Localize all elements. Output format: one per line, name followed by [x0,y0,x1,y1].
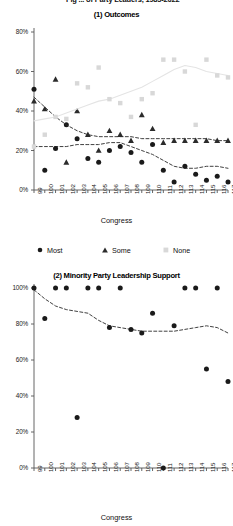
figure-header-text: Fig ... of Party Leaders, 1985-2022 [66,0,179,4]
x-tick-label: 108 [133,462,140,472]
data-point-minority-party-leadership-support [204,367,209,372]
panel-outcomes: (1) Outcomes Congress 0%20%40%60%80%9910… [0,10,233,238]
x-tick-label: 111 [166,185,173,194]
data-point-most [204,178,209,183]
data-point-minority-party-leadership-support [129,327,134,332]
x-tick-label: 114 [198,185,205,194]
data-point-none [86,85,90,89]
data-point-most [118,144,123,149]
data-point-minority-party-leadership-support [75,415,80,420]
data-point-none [118,101,122,105]
data-point-minority-party-leadership-support [139,331,144,336]
data-point-minority-party-leadership-support [53,286,58,291]
data-point-minority-party-leadership-support [107,325,112,330]
x-tick-label: 101 [58,462,65,472]
legend-label-some: Some [112,246,131,255]
data-point-none [226,75,230,79]
x-tick-label: 115 [209,185,216,194]
data-point-none [107,97,111,101]
data-point-none [183,69,187,73]
data-point-none [150,91,154,95]
x-tick-label: 113 [187,463,194,472]
data-point-some [106,128,112,133]
y-tick-label: 100% [0,284,28,291]
figure-header-clipped: Fig ... of Party Leaders, 1985-2022 [0,0,233,9]
data-point-none [193,123,197,127]
y-tick-label: 60% [0,356,28,363]
x-tick-label: 102 [69,462,76,472]
data-point-none [161,57,165,61]
x-tick-label: 100 [47,184,54,194]
data-point-some [128,138,134,143]
panel-2-axis-title: Congress [0,513,233,522]
x-tick-label: 101 [58,184,65,194]
data-point-most [215,174,220,179]
x-tick-label: 116 [220,185,227,194]
panel-1-axis-title: Congress [0,216,233,225]
data-point-minority-party-leadership-support [226,379,231,384]
y-tick-label: 40% [0,107,28,114]
data-point-most [96,160,101,165]
x-tick-label: 112 [177,185,184,194]
data-point-none [215,73,219,77]
panel-minority-support: (2) Minority Party Leadership Support Co… [0,268,233,526]
data-point-minority-party-leadership-support [96,286,101,291]
y-tick-label: 0% [0,464,28,471]
x-tick-label: 104 [90,462,97,472]
y-tick-label: 0% [0,186,28,193]
data-point-some [117,132,123,137]
x-tick-label: 105 [101,462,108,472]
legend-label-none: None [173,246,190,255]
data-point-most [107,148,112,153]
x-tick-label: 114 [198,463,205,472]
data-point-none [204,57,208,61]
data-point-some [150,126,156,131]
data-point-minority-party-leadership-support [85,286,90,291]
data-point-most [32,87,37,92]
legend-marker-most [38,248,43,253]
data-point-most [53,146,58,151]
x-tick-label: 106 [112,462,119,472]
data-point-most [226,180,231,185]
legend-marker-some [102,247,108,252]
panel-2-plot [0,268,233,526]
x-tick-label: 109 [144,184,151,194]
y-tick-label: 80% [0,320,28,327]
x-tick-label: 111 [166,463,173,472]
legend: Most Some None [0,243,233,257]
x-tick-label: 108 [133,184,140,194]
x-tick-label: 115 [209,463,216,472]
x-tick-label: 110 [155,463,162,472]
y-tick-label: 20% [0,428,28,435]
data-point-minority-party-leadership-support [64,286,69,291]
data-point-none [32,144,36,148]
y-tick-label: 20% [0,147,28,154]
data-point-most [172,180,177,185]
data-point-most [129,150,134,155]
data-point-most [75,136,80,141]
data-point-none [129,115,133,119]
x-tick-label: 109 [144,462,151,472]
x-tick-label: 99 [36,466,43,472]
data-point-minority-party-leadership-support [193,286,198,291]
data-point-most [161,168,166,173]
data-point-some [53,76,59,81]
data-point-some [63,159,69,164]
x-tick-label: 106 [112,184,119,194]
data-point-none [43,133,47,137]
data-point-some [139,112,145,117]
x-tick-label: 117 [230,463,233,472]
x-tick-label: 100 [47,462,54,472]
x-tick-label: 110 [155,185,162,194]
data-point-most [150,142,155,147]
data-point-minority-party-leadership-support [32,286,37,291]
data-point-most [42,168,47,173]
data-point-none [96,65,100,69]
x-tick-label: 103 [80,462,87,472]
legend-marker-none [164,248,169,253]
x-tick-label: 99 [36,188,43,194]
y-tick-label: 60% [0,68,28,75]
data-point-minority-party-leadership-support [172,323,177,328]
data-point-most [193,172,198,177]
data-point-most [182,164,187,169]
